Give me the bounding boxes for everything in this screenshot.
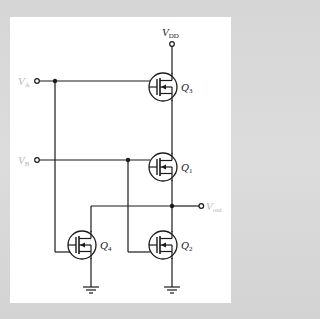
ground-icon-q2 [164, 287, 180, 293]
transistor-q2 [149, 231, 177, 259]
vb-label: VB [18, 155, 29, 168]
junction-dot-va [53, 79, 57, 83]
va-label: VA [18, 76, 30, 89]
transistor-q4 [68, 231, 96, 259]
vdd-label: VDD [162, 27, 179, 40]
vout-label: Vout [206, 201, 222, 214]
circuit-schematic [0, 0, 236, 319]
junction-dot-vb [126, 158, 130, 162]
junction-dot-vout [170, 204, 174, 208]
transistor-q1 [149, 153, 177, 181]
va-terminal [35, 79, 40, 84]
q4-label: Q4 [100, 240, 111, 253]
vb-terminal [35, 158, 40, 163]
ground-icon-q4 [83, 287, 99, 293]
q1-label: Q1 [181, 162, 192, 175]
vdd-terminal [170, 42, 175, 47]
vout-terminal [199, 204, 204, 209]
q3-label: Q3 [181, 82, 192, 95]
transistor-q3 [149, 73, 177, 101]
q2-label: Q2 [181, 240, 192, 253]
